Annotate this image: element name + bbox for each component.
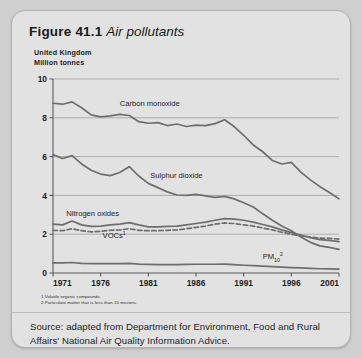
y-axis-tick-label: 6 — [42, 152, 47, 162]
y-axis-tick-label: 2 — [42, 229, 47, 239]
x-axis-tick-label: 1981 — [139, 278, 158, 288]
x-axis-tick-label: 1986 — [187, 278, 206, 288]
line-chart: 02468101971197619811986199119962001Carbo… — [12, 11, 351, 301]
series-label-carbon-monoxide: Carbon monoxide — [120, 99, 180, 108]
series-line-vocs — [53, 223, 339, 239]
y-axis-tick-label: 8 — [42, 113, 47, 123]
y-axis-tick-label: 10 — [38, 74, 48, 84]
source-divider — [12, 312, 350, 313]
series-label-vocs: VOCs1 — [103, 230, 126, 240]
footnote-2: 2 Particulate matter that is less than 1… — [41, 300, 137, 306]
y-axis-tick-label: 0 — [42, 268, 47, 278]
series-line-carbon-monoxide — [53, 102, 339, 199]
x-axis-tick-label: 1991 — [234, 278, 253, 288]
series-label-pm10: PM102 — [263, 251, 283, 263]
x-axis-tick-label: 2001 — [320, 278, 339, 288]
series-label-nitrogen-oxides: Nitrogen oxides — [66, 209, 119, 218]
series-line-nitrogen-oxides — [53, 219, 339, 242]
source-note: Source: adapted from Department for Envi… — [30, 320, 336, 347]
series-label-sulphur-dioxide: Sulphur dioxide — [150, 171, 202, 180]
chart-plot-area: 02468101971197619811986199119962001Carbo… — [12, 11, 351, 301]
chart-footnotes: 1 Volatile organic compounds. 2 Particul… — [41, 294, 137, 306]
x-axis-tick-label: 1996 — [282, 278, 301, 288]
figure-card: Figure 41.1 Air pollutants United Kingdo… — [11, 10, 351, 348]
x-axis-tick-label: 1976 — [91, 278, 110, 288]
x-axis-tick-label: 1971 — [53, 278, 72, 288]
y-axis-tick-label: 4 — [42, 191, 47, 201]
series-line-pm10 — [53, 263, 339, 270]
